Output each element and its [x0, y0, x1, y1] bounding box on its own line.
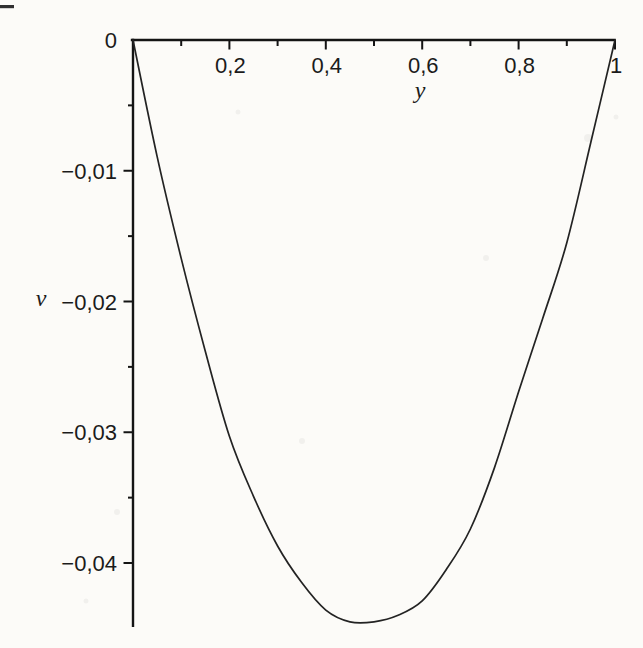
x-tick-label: 0,6: [408, 53, 439, 78]
paper-speck: [483, 255, 489, 261]
x-tick-label: 0,8: [504, 53, 535, 78]
figure-wrap: 0,20,40,60,81 0−0,01−0,02−0,03−0,04 y v: [0, 0, 643, 648]
y-axis-tick-labels: 0−0,01−0,02−0,03−0,04: [61, 28, 117, 576]
paper-speck: [236, 110, 241, 115]
y-tick-label: −0,01: [61, 159, 117, 184]
paper-speck: [84, 599, 89, 604]
curve-v-profile: [133, 40, 615, 623]
y-tick-label: 0: [105, 28, 117, 53]
paper-speck: [114, 509, 120, 515]
x-axis-title: y: [413, 77, 426, 103]
y-axis-ticks: [124, 105, 134, 563]
x-axis-ticks: [181, 40, 615, 50]
y-tick-label: −0,03: [61, 420, 117, 445]
x-tick-label: 0,2: [215, 53, 246, 78]
y-tick-label: −0,04: [61, 551, 117, 576]
y-axis-title: v: [36, 285, 47, 311]
figure-canvas: 0,20,40,60,81 0−0,01−0,02−0,03−0,04 y v: [0, 0, 643, 648]
scan-artifact-dash: [0, 5, 14, 8]
x-tick-label: 0,4: [312, 53, 343, 78]
paper-speck: [614, 115, 619, 120]
x-axis-tick-labels: 0,20,40,60,81: [215, 53, 622, 78]
y-tick-label: −0,02: [61, 290, 117, 315]
paper-speck: [299, 438, 305, 444]
